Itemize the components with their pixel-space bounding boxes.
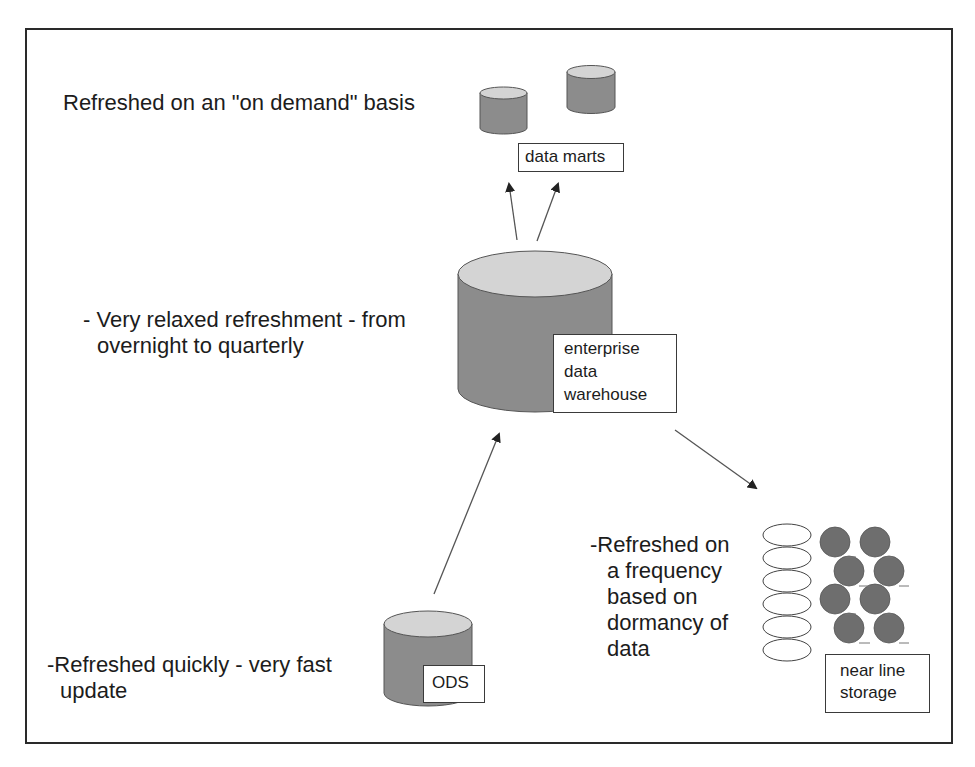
near-line-label-line: storage	[840, 682, 929, 704]
edw-label: enterprise data warehouse	[553, 334, 677, 413]
near-line-annotation-line-4: dormancy of	[607, 610, 728, 636]
disk-grid-icon	[820, 527, 909, 643]
edw-annotation-line-2: overnight to quarterly	[97, 333, 304, 359]
data-mart-cylinder-icon	[480, 87, 527, 134]
ods-annotation-line-1: -Refreshed quickly - very fast	[47, 652, 332, 678]
ods-label-text: ODS	[432, 673, 469, 692]
data-marts-label-text: data marts	[525, 147, 605, 166]
near-line-annotation-line-2: a frequency	[607, 558, 722, 584]
near-line-label-line: near line	[840, 660, 929, 682]
ods-label: ODS	[423, 665, 485, 703]
edw-label-line: data	[564, 360, 666, 383]
data-marts-annotation: Refreshed on an "on demand" basis	[63, 90, 415, 116]
near-line-annotation-line-3: based on	[607, 584, 698, 610]
data-marts-label: data marts	[518, 143, 624, 172]
arrow-edw-to-datamart-2	[537, 184, 558, 241]
near-line-storage-label: near line storage	[825, 654, 930, 713]
data-mart-cylinder-icon	[567, 66, 615, 114]
tape-stack-icon	[763, 524, 811, 661]
ods-annotation-line-2: update	[60, 678, 127, 704]
edw-label-line: enterprise	[564, 337, 666, 360]
near-line-annotation-line-5: data	[607, 636, 650, 662]
near-line-annotation-line-1: -Refreshed on	[590, 532, 729, 558]
arrow-ods-to-edw	[434, 434, 499, 594]
arrow-edw-to-nearline	[675, 430, 756, 488]
edw-label-line: warehouse	[564, 383, 666, 406]
arrow-edw-to-datamart-1	[509, 184, 517, 240]
edw-annotation-line-1: - Very relaxed refreshment - from	[83, 307, 406, 333]
